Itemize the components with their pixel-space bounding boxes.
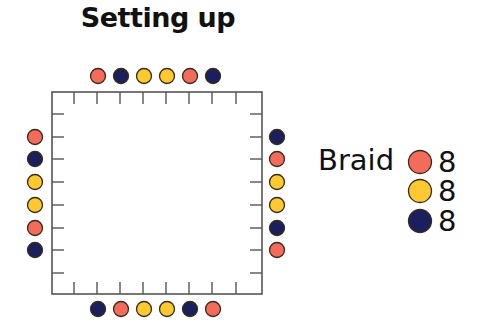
legend-count-navy: 8 <box>438 206 456 236</box>
yellow-thread-dot <box>160 69 175 84</box>
yellow-thread-dot <box>409 180 432 203</box>
yellow-thread-dot <box>28 198 43 213</box>
braiding-board-diagram <box>0 0 480 332</box>
navy-thread-dot <box>28 243 43 258</box>
frame-outline <box>52 92 262 294</box>
salmon-thread-dot <box>28 221 43 236</box>
left-thread-dots <box>28 130 43 258</box>
salmon-thread-dot <box>28 130 43 145</box>
yellow-thread-dot <box>160 302 175 317</box>
yellow-thread-dot <box>137 69 152 84</box>
salmon-thread-dot <box>270 243 285 258</box>
bottom-thread-dots <box>91 302 221 317</box>
legend-count-salmon: 8 <box>438 147 456 177</box>
salmon-thread-dot <box>206 302 221 317</box>
navy-thread-dot <box>206 69 221 84</box>
top-thread-dots <box>91 69 221 84</box>
salmon-thread-dot <box>114 302 129 317</box>
navy-thread-dot <box>270 221 285 236</box>
navy-thread-dot <box>28 152 43 167</box>
navy-thread-dot <box>270 130 285 145</box>
navy-thread-dot <box>91 302 106 317</box>
yellow-thread-dot <box>137 302 152 317</box>
board-frame <box>52 92 262 294</box>
salmon-thread-dot <box>91 69 106 84</box>
legend-count-yellow: 8 <box>438 176 456 206</box>
salmon-thread-dot <box>183 69 198 84</box>
navy-thread-dot <box>409 210 432 233</box>
yellow-thread-dot <box>28 175 43 190</box>
legend-label: Braid <box>318 143 394 177</box>
navy-thread-dot <box>114 69 129 84</box>
right-thread-dots <box>270 130 285 258</box>
salmon-thread-dot <box>409 151 432 174</box>
yellow-thread-dot <box>270 175 285 190</box>
salmon-thread-dot <box>270 152 285 167</box>
yellow-thread-dot <box>270 198 285 213</box>
navy-thread-dot <box>183 302 198 317</box>
legend-swatches <box>409 151 432 233</box>
